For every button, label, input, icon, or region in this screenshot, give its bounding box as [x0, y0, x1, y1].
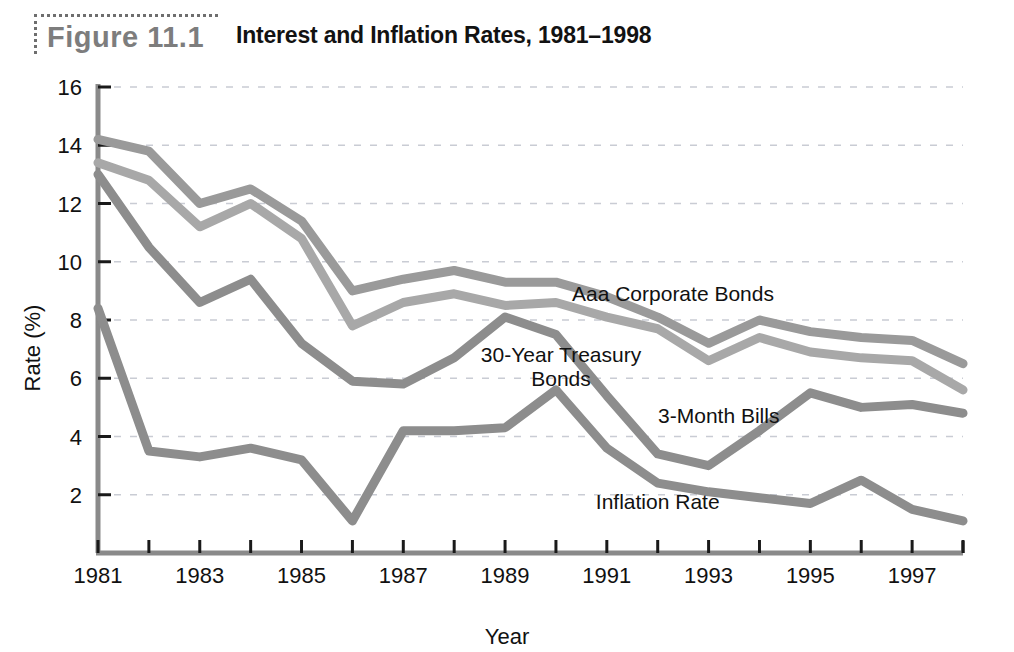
chart-canvas: 198119831985198719891991199319951997 246…: [0, 78, 1014, 652]
annotation-2: 3-Month Bills: [658, 404, 779, 427]
y-axis-title: Rate (%): [20, 305, 45, 392]
x-tick-label-1985: 1985: [277, 563, 326, 588]
figure-number-badge: Figure 11.1: [34, 14, 218, 54]
y-tick-label-14: 14: [58, 133, 82, 158]
figure-number-label: Figure 11.1: [47, 23, 204, 52]
x-tick-label-1997: 1997: [888, 563, 937, 588]
x-tick-label-1987: 1987: [379, 563, 428, 588]
annotation-3: Inflation Rate: [596, 490, 720, 513]
x-tick-label-1993: 1993: [684, 563, 733, 588]
y-tick-label-2: 2: [70, 483, 82, 508]
x-tick-label-1983: 1983: [175, 563, 224, 588]
chart-axes: [96, 84, 963, 553]
x-tick-label-1991: 1991: [582, 563, 631, 588]
series-annotations: Aaa Corporate Bonds30-Year TreasuryBonds…: [481, 282, 780, 513]
x-tick-label-1981: 1981: [74, 563, 123, 588]
x-axis-tick-labels: 198119831985198719891991199319951997: [74, 563, 937, 588]
y-tick-label-10: 10: [58, 250, 82, 275]
series-line-3: [98, 308, 963, 521]
x-axis-title: Year: [485, 624, 529, 649]
y-tick-label-12: 12: [58, 192, 82, 217]
y-axis-tick-labels: 246810121416: [58, 78, 82, 508]
y-tick-label-6: 6: [70, 366, 82, 391]
annotation-1-line2: Bonds: [531, 367, 591, 390]
x-tick-label-1995: 1995: [786, 563, 835, 588]
annotation-1-line1: 30-Year Treasury: [481, 343, 642, 366]
annotation-0: Aaa Corporate Bonds: [572, 282, 774, 305]
y-tick-label-16: 16: [58, 78, 82, 100]
x-tick-label-1989: 1989: [481, 563, 530, 588]
figure-title: Interest and Inflation Rates, 1981–1998: [236, 22, 651, 49]
y-tick-label-4: 4: [70, 425, 82, 450]
figure-header: Figure 11.1 Interest and Inflation Rates…: [0, 0, 1014, 78]
y-tick-label-8: 8: [70, 308, 82, 333]
data-series: [98, 139, 963, 521]
line-chart: 198119831985198719891991199319951997 246…: [0, 78, 1014, 652]
